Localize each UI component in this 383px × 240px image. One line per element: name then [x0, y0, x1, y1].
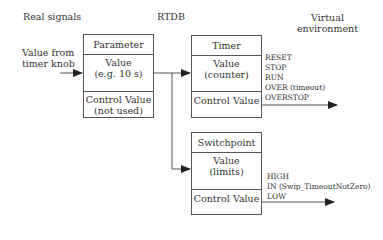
switchpoint-title: Switchpoint: [192, 137, 261, 148]
timer-control: Control Value: [192, 95, 261, 106]
timer-state: OVER (timeout): [265, 83, 325, 92]
switchpoint-state: HIGH: [267, 172, 289, 181]
parameter-title: Parameter: [84, 39, 153, 50]
parameter-control: Control Value (not used): [84, 94, 153, 116]
switchpoint-box: Switchpoint Value (limits) Control Value: [191, 132, 262, 215]
switchpoint-state: IN (Swip_TimeoutNotZero): [267, 182, 370, 191]
timer-state: OVERSTOP: [265, 93, 309, 102]
timer-state: RUN: [265, 73, 284, 82]
timer-title: Timer: [192, 40, 261, 51]
switchpoint-value: Value (limits): [192, 155, 261, 177]
switchpoint-state: LOW: [267, 192, 286, 201]
timer-box: Timer Value (counter) Control Value: [191, 35, 262, 118]
timer-state: STOP: [265, 63, 286, 72]
parameter-value: Value (e.g. 10 s): [84, 57, 153, 79]
timer-state: RESET: [265, 53, 292, 62]
parameter-box: Parameter Value (e.g. 10 s) Control Valu…: [83, 34, 154, 118]
switchpoint-control: Control Value: [192, 193, 261, 204]
timer-value: Value (counter): [192, 58, 261, 80]
